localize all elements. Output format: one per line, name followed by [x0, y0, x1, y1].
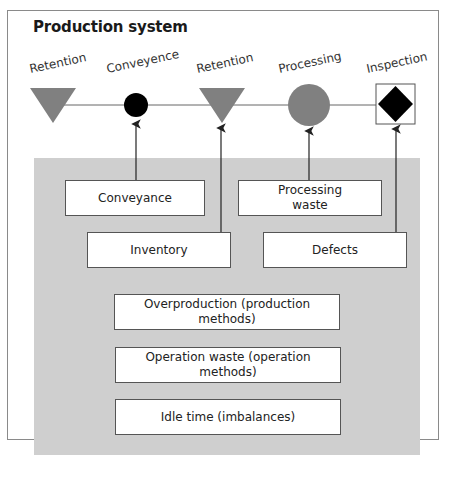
conveyance-circle-icon: [124, 93, 148, 117]
box-inventory: Inventory: [87, 232, 231, 268]
box-processing-waste: Processing waste: [238, 180, 382, 216]
box-idle-time: Idle time (imbalances): [115, 399, 341, 435]
box-conveyance: Conveyance: [65, 180, 205, 216]
box-conveyance-label: Conveyance: [98, 191, 172, 206]
box-overproduction-label: Overproduction (production methods): [115, 297, 339, 327]
box-defects-label: Defects: [312, 243, 358, 258]
box-defects: Defects: [263, 232, 407, 268]
box-processing-waste-label-1: Processing: [278, 183, 342, 198]
box-overproduction: Overproduction (production methods): [114, 294, 340, 330]
box-processing-waste-label-2: waste: [292, 198, 328, 213]
box-idle-time-label: Idle time (imbalances): [161, 410, 296, 425]
box-operation-waste-label: Operation waste (operation methods): [116, 350, 340, 380]
processing-circle-icon: [288, 84, 330, 126]
box-operation-waste: Operation waste (operation methods): [115, 347, 341, 383]
box-inventory-label: Inventory: [130, 243, 187, 258]
